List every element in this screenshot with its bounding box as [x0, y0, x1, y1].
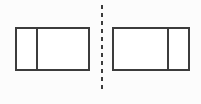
geometry-figure: [0, 0, 201, 104]
right-rectangle-outline: [113, 28, 189, 70]
diagram-canvas: [0, 0, 201, 104]
left-rectangle-group: [16, 28, 89, 70]
right-rectangle-group: [113, 28, 189, 70]
left-rectangle-outline: [16, 28, 89, 70]
